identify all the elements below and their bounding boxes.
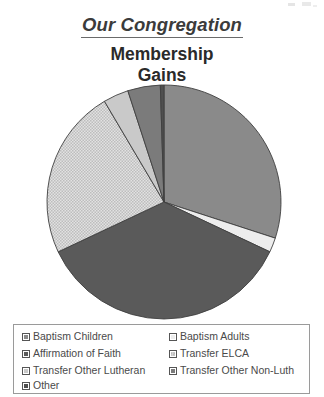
pie-chart [45, 84, 283, 322]
swatch-transfer-other-non-luth [169, 367, 177, 375]
legend-item-transfer-other-lutheran[interactable]: Transfer Other Lutheran [22, 365, 145, 376]
chart-legend: Baptism Children Baptism Adults Affirmat… [13, 324, 310, 394]
pie-chart-svg [45, 84, 283, 322]
legend-item-transfer-elca[interactable]: Transfer ELCA [169, 348, 249, 359]
swatch-baptism-children [22, 333, 30, 341]
swatch-transfer-other-lutheran [22, 367, 30, 375]
chart-title-line-2: Gains [0, 65, 324, 86]
page-title: Our Congregation [0, 14, 324, 36]
swatch-transfer-elca [169, 350, 177, 358]
swatch-other [22, 382, 30, 390]
pie-slice-group [47, 85, 281, 319]
legend-item-transfer-other-non-luth[interactable]: Transfer Other Non-Luth [169, 365, 294, 376]
legend-label-affirmation-of-faith: Affirmation of Faith [33, 348, 121, 359]
legend-grid: Baptism Children Baptism Adults Affirmat… [14, 325, 309, 393]
legend-label-other: Other [33, 380, 59, 391]
legend-label-transfer-elca: Transfer ELCA [180, 348, 249, 359]
legend-label-transfer-other-non-luth: Transfer Other Non-Luth [180, 365, 294, 376]
legend-item-baptism-adults[interactable]: Baptism Adults [169, 331, 249, 342]
legend-item-baptism-children[interactable]: Baptism Children [22, 331, 113, 342]
legend-label-baptism-children: Baptism Children [33, 331, 113, 342]
chart-title: Membership Gains [0, 44, 324, 86]
swatch-affirmation-of-faith [22, 350, 30, 358]
legend-label-baptism-adults: Baptism Adults [180, 331, 249, 342]
chart-title-line-1: Membership [0, 44, 324, 65]
legend-item-other[interactable]: Other [22, 380, 59, 391]
legend-item-affirmation-of-faith[interactable]: Affirmation of Faith [22, 348, 121, 359]
swatch-baptism-adults [169, 333, 177, 341]
page-title-underline [81, 37, 243, 38]
legend-label-transfer-other-lutheran: Transfer Other Lutheran [33, 365, 145, 376]
